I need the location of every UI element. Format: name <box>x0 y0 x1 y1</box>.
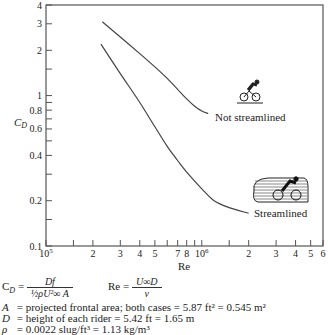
x-tick-label: 7 <box>175 248 180 259</box>
cyclist-icon <box>237 80 263 103</box>
x-tick-label: 3 <box>274 248 279 259</box>
x-tick-label: 3 <box>118 248 123 259</box>
y-axis-label: CD <box>14 116 27 130</box>
y-tick-label: 3 <box>37 18 42 29</box>
x-tick-label: 5 <box>308 248 313 259</box>
x-tick-label: 5 <box>152 248 157 259</box>
x-tick-label: 8 <box>184 248 189 259</box>
y-tick-label: 1 <box>37 90 42 101</box>
y-axis-ticks: 0.10.20.40.60.81234 <box>30 0 53 252</box>
annotation-not-streamlined: Not streamlined <box>215 111 286 123</box>
x-tick-label: 2 <box>90 248 95 259</box>
drag-coefficient-formula: CD = Df½ρU²∞ A <box>2 276 73 299</box>
y-tick-label: 0.8 <box>30 105 43 116</box>
y-tick-label: 0.6 <box>30 123 43 134</box>
note-density: ρ = 0.0022 slug/ft³ = 1.13 kg/m³ <box>2 324 150 335</box>
y-tick-label: 0.2 <box>30 195 43 206</box>
x-axis-ticks: 10523457810623456 <box>39 240 325 259</box>
x-tick-label: 4 <box>293 248 298 259</box>
y-tick-label: 4 <box>37 0 42 11</box>
streamlined-cyclist-icon <box>253 177 308 202</box>
x-tick-label: 2 <box>246 248 251 259</box>
y-tick-label: 0.1 <box>30 241 43 252</box>
x-tick-label: 4 <box>137 248 142 259</box>
y-tick-label: 2 <box>37 45 42 56</box>
y-tick-label: 0.4 <box>30 150 43 161</box>
x-tick-label: 6 <box>321 248 326 259</box>
annotation-streamlined: Streamlined <box>254 207 308 219</box>
curve-not-streamlined <box>102 22 208 114</box>
x-tick-label: 106 <box>195 247 209 259</box>
reynolds-number-formula: Re = U∞Dν <box>108 276 162 299</box>
x-axis-label: Re <box>178 260 190 272</box>
curve-streamlined <box>101 44 249 213</box>
